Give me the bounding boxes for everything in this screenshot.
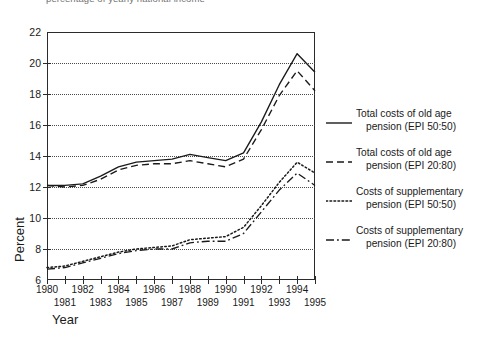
x-axis-tick-label: 1990: [215, 284, 237, 295]
x-axis-tick-label: 1986: [143, 284, 165, 295]
x-axis-tick-label: 1982: [72, 284, 94, 295]
y-axis-tick-label: 12: [29, 181, 41, 193]
y-axis-tick-label: 22: [29, 26, 41, 38]
x-axis-labels: 1980198219841986198819901992199419811983…: [0, 284, 481, 314]
x-axis-tick-label: 1991: [232, 297, 254, 308]
legend-line-sample-dashed: [326, 152, 352, 160]
legend-label-line1: Total costs of old age: [356, 108, 452, 119]
x-axis-tick-label: 1984: [107, 284, 129, 295]
x-axis-tick-label: 1992: [250, 284, 272, 295]
y-axis-title: Percent: [12, 205, 27, 275]
legend-label-line1: Costs of supplementary: [356, 186, 463, 197]
legend-line-sample-dashdot: [326, 230, 352, 238]
y-axis-tick-label: 10: [29, 212, 41, 224]
legend-label-line2: pension (EPI 50:50): [366, 121, 478, 134]
legend-item[interactable]: Total costs of old agepension (EPI 50:50…: [326, 108, 478, 134]
legend-item[interactable]: Total costs of old agepension (EPI 20:80…: [326, 147, 478, 173]
y-axis-tick-label: 20: [29, 57, 41, 69]
legend-label: Total costs of old agepension (EPI 20:80…: [356, 147, 478, 172]
x-axis-tick-label: 1980: [36, 284, 58, 295]
chart-page: percentage of yearly national income 222…: [0, 0, 481, 340]
x-axis-title: Year: [52, 312, 78, 327]
x-axis-tick-label: 1983: [89, 297, 111, 308]
y-axis-tick-label: 14: [29, 150, 41, 162]
series-line-1: [47, 54, 315, 186]
legend-item[interactable]: Costs of supplementarypension (EPI 50:50…: [326, 186, 478, 212]
legend-line-sample-solid: [326, 113, 352, 121]
series-line-2: [47, 71, 315, 187]
legend-line-sample-dotted: [326, 191, 352, 199]
x-axis-tick-label: 1981: [54, 297, 76, 308]
y-axis-tick-label: 18: [29, 88, 41, 100]
series-line-3: [47, 162, 315, 267]
legend-item[interactable]: Costs of supplementarypension (EPI 20:80…: [326, 225, 478, 251]
x-axis-tick-label: 1985: [125, 297, 147, 308]
chart-legend: Total costs of old agepension (EPI 50:50…: [326, 108, 478, 264]
legend-label-line1: Costs of supplementary: [356, 225, 463, 236]
y-axis-tick-label: 16: [29, 119, 41, 131]
x-axis-tick-label: 1993: [268, 297, 290, 308]
x-axis-tick-label: 1994: [286, 284, 308, 295]
legend-label-line1: Total costs of old age: [356, 147, 452, 158]
x-axis-tick-label: 1987: [161, 297, 183, 308]
x-axis-tick-label: 1995: [304, 297, 326, 308]
x-axis-tick-label: 1989: [197, 297, 219, 308]
legend-label: Total costs of old agepension (EPI 50:50…: [356, 108, 478, 133]
legend-label-line2: pension (EPI 50:50): [366, 199, 478, 212]
legend-label: Costs of supplementarypension (EPI 50:50…: [356, 186, 478, 211]
legend-label-line2: pension (EPI 20:80): [366, 160, 478, 173]
series-layer: [47, 32, 315, 280]
y-axis-tick-label: 8: [35, 243, 41, 255]
x-axis-tick-label: 1988: [179, 284, 201, 295]
legend-label: Costs of supplementarypension (EPI 20:80…: [356, 225, 478, 250]
chart-caption: percentage of yearly national income: [46, 0, 205, 4]
legend-label-line2: pension (EPI 20:80): [366, 238, 478, 251]
x-axis-tick: [315, 276, 316, 284]
plot-area: 2220181614121086: [47, 32, 315, 280]
